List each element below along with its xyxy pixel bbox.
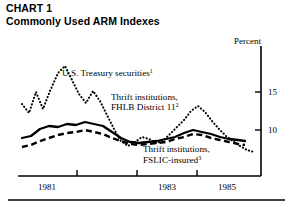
y-tick-label-15: 15 (268, 87, 278, 97)
annotation-fhlb-line1: Thrift institutions, (111, 92, 178, 102)
x-tick-label-1983: 1983 (158, 182, 177, 192)
series-fhlb-line (22, 122, 245, 143)
annotation-fhlb-line2-text: FHLB District 11 (111, 102, 176, 112)
x-tick-label-1981: 1981 (38, 182, 56, 192)
chart-svg: Percent 15 10 1981 1983 1985 U.S. Treasu… (0, 0, 293, 210)
annotation-treasury: U.S. Treasury securities1 (62, 68, 153, 78)
annotation-treasury-footnote: 1 (150, 68, 153, 74)
y-axis-title: Percent (234, 36, 261, 46)
annotation-fslic-line2-text: FSLIC-insured (143, 155, 199, 165)
annotation-treasury-text: U.S. Treasury securities (62, 68, 150, 78)
chart-figure: CHART 1 Commonly Used ARM Indexes Percen… (0, 0, 293, 210)
annotation-fslic-footnote: 3 (198, 155, 201, 161)
annotation-fslic-line2: FSLIC-insured3 (143, 155, 201, 165)
annotation-fslic-line1: Thrift institutions, (143, 144, 210, 154)
annotation-fhlb-footnote: 2 (175, 102, 178, 108)
annotation-fhlb-line2: FHLB District 112 (111, 102, 178, 112)
series-fslic-line (22, 130, 245, 147)
plot-area: Percent 15 10 1981 1983 1985 U.S. Treasu… (0, 0, 293, 210)
x-tick-label-1985: 1985 (218, 182, 237, 192)
y-tick-label-10: 10 (268, 125, 278, 135)
